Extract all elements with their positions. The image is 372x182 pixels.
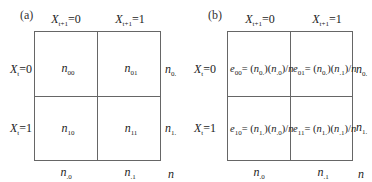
panel-a-row-divider [34, 96, 161, 97]
panel-b-row-header-1: Xt=1 [194, 122, 216, 137]
panel-b-col-total-1: n.1 [317, 166, 328, 181]
panel-a-col-total-1: n.1 [124, 166, 135, 181]
panel-b-cell-00-formula: e00= (n0.)(n.0)/n [230, 64, 293, 77]
panel-b-tag: (b) [208, 8, 222, 23]
panel-a-col-total-0: n.0 [60, 166, 71, 181]
panel-b-grand-total: n [358, 168, 364, 180]
panel-a-col-header-1: Xt+1=1 [115, 13, 145, 28]
panel-b-row-total-1: n1. [356, 121, 367, 136]
panel-a-col-header-0: Xt+1=0 [51, 13, 81, 28]
panel-a-cell-10: n10 [62, 122, 75, 137]
panel-b-row-divider [227, 96, 353, 97]
panel-a-row-header-0: Xt=0 [10, 63, 32, 78]
panel-b-col-total-0: n.0 [253, 166, 264, 181]
panel-b-col-header-0: Xt+1=0 [245, 13, 275, 28]
panel-b-cell-11-formula: e11= (n1.)(n.1)/n [293, 124, 356, 137]
panel-a-tag: (a) [20, 8, 33, 23]
panel-a-cell-01: n01 [125, 62, 138, 77]
panel-a-row-total-0: n0. [165, 63, 176, 78]
panel-b-cell-01-formula: e01= (n0.)(n.1)/n [293, 64, 356, 77]
panel-a-cell-11: n11 [125, 122, 138, 137]
panel-b-row-header-0: Xt=0 [194, 63, 216, 78]
panel-a-observed-counts: (a) Xt+1=0 Xt+1=1 Xt=0 Xt=1 n00 n01 n10 … [0, 0, 186, 182]
panel-a-cell-00: n00 [62, 62, 75, 77]
panel-b-expected-counts: (b) Xt+1=0 Xt+1=1 Xt=0 Xt=1 e00= (n0.)(n… [186, 0, 372, 182]
panel-a-row-header-1: Xt=1 [10, 122, 32, 137]
panel-b-cell-10-formula: e10= (n1.)(n.0)/n [230, 124, 293, 137]
panel-a-grand-total: n [168, 168, 174, 180]
panel-b-row-total-0: n0. [356, 63, 367, 78]
panel-b-col-header-1: Xt+1=1 [312, 13, 342, 28]
panel-a-row-total-1: n1. [165, 122, 176, 137]
